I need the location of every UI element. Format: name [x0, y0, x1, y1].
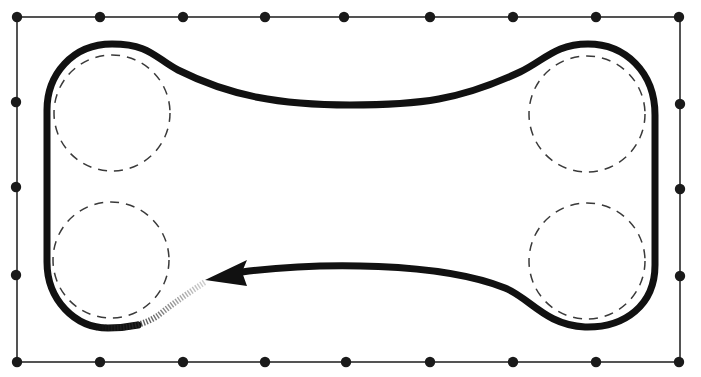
frame-dot-bottom	[674, 357, 684, 367]
frame-dots	[11, 12, 685, 367]
frame-dot-bottom	[95, 357, 105, 367]
frame-dot-bottom	[341, 357, 351, 367]
frame-dot-bottom	[425, 357, 435, 367]
direction-arrowhead-icon	[205, 260, 247, 286]
frame-rectangle	[17, 17, 680, 362]
frame-dot-top	[508, 12, 518, 22]
track-main-path	[47, 44, 655, 328]
guide-circle-top-right	[529, 56, 645, 172]
guide-circles	[53, 55, 645, 319]
frame-dot-bottom	[260, 357, 270, 367]
frame-dot-bottom	[591, 357, 601, 367]
guide-circle-bottom-left	[53, 202, 169, 318]
frame-dot-right	[675, 271, 685, 281]
frame-dot-top	[95, 12, 105, 22]
frame-dot-top	[178, 12, 188, 22]
guide-circle-bottom-right	[529, 203, 645, 319]
frame-dot-bottom	[178, 357, 188, 367]
frame-dot-top	[425, 12, 435, 22]
frame-dot-top	[260, 12, 270, 22]
frame-dot-top	[339, 12, 349, 22]
frame-dot-left	[11, 270, 21, 280]
frame-dot-top	[674, 12, 684, 22]
frame-dot-left	[11, 182, 21, 192]
frame-dot-bottom	[508, 357, 518, 367]
diagram-canvas	[0, 0, 701, 377]
frame-dot-top	[12, 12, 22, 22]
track-faded-segment	[96, 282, 205, 328]
frame-dot-right	[675, 99, 685, 109]
outer-frame	[11, 12, 685, 367]
track-diagram	[0, 0, 701, 377]
track	[47, 44, 655, 328]
frame-dot-top	[591, 12, 601, 22]
frame-dot-bottom	[12, 357, 22, 367]
guide-circle-top-left	[54, 55, 170, 171]
frame-dot-left	[11, 97, 21, 107]
frame-dot-right	[675, 184, 685, 194]
